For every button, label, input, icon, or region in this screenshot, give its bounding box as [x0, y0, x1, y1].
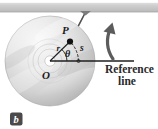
rotating-disc-figure: P r θ s O Reference line b [0, 0, 158, 129]
figure-svg: P r θ s O Reference line b [0, 0, 158, 129]
panel-badge: b [10, 113, 23, 126]
label-center-o: O [42, 69, 50, 81]
label-arc-s: s [79, 43, 84, 53]
panel-badge-letter: b [13, 114, 18, 125]
reference-line-caption-line1: Reference [105, 63, 154, 75]
ceiling-support-bar [0, 2, 158, 12]
point-p-marker [67, 38, 73, 44]
label-radius-r: r [57, 43, 61, 53]
label-angle-theta: θ [65, 48, 71, 59]
reference-line-caption-line2: line [118, 75, 136, 87]
label-point-p: P [62, 24, 69, 36]
